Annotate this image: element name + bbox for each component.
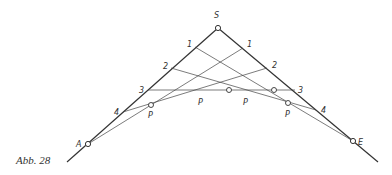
left-division-label: 4 xyxy=(114,108,119,117)
left-division-label: 1 xyxy=(187,40,192,49)
parabola-construction-diagram: S A E 1 2 3 4 1 2 3 4 P P P P Abb. 28 xyxy=(0,0,392,175)
curve-point-p2 xyxy=(227,88,232,93)
end-label: E xyxy=(358,138,364,147)
curve-point-label: P xyxy=(243,98,248,107)
right-division-label: 3 xyxy=(298,86,303,95)
left-division-label: 3 xyxy=(139,86,144,95)
end-point-e xyxy=(350,138,355,143)
curve-point-p4 xyxy=(286,101,291,106)
curve-point-label: P xyxy=(148,111,153,120)
apex-label: S xyxy=(214,11,219,20)
right-division-label: 4 xyxy=(321,106,326,115)
right-division-label: 2 xyxy=(272,61,277,70)
start-point-a xyxy=(85,141,90,146)
figure-caption: Abb. 28 xyxy=(15,154,51,166)
right-division-label: 1 xyxy=(247,40,252,49)
start-label: A xyxy=(75,140,81,149)
left-division-label: 2 xyxy=(163,62,168,71)
apex-point-s xyxy=(215,25,220,30)
curve-point-p1 xyxy=(149,103,154,108)
curve-point-label: P xyxy=(198,98,203,107)
curve-point-label: P xyxy=(285,110,290,119)
curve-point-p3 xyxy=(272,88,277,93)
